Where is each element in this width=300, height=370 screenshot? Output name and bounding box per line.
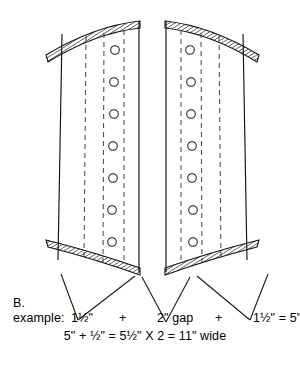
right-board [155,15,267,284]
right-board-top-crown [155,15,267,73]
left-board [40,15,150,284]
measure-a: 1½" [71,311,119,326]
annotation-block: B. example:1½"+2" gap+1½" = 5" 5" + ½" =… [0,296,300,366]
right-board-edges [166,22,247,272]
calculation-line-1: example:1½"+2" gap+1½" = 5" [13,311,300,326]
fastener-circle [189,206,198,215]
right-board-bottom-crown [155,232,267,284]
fastener-circle [109,174,118,183]
gap-measure: 2" gap [157,311,215,326]
right-board-guides [181,30,221,264]
left-board-top-crown [40,15,150,73]
fastener-circle [109,142,118,151]
calculation-line-2: 5" + ½" = 5½" X 2 = 11" wide [0,329,290,344]
fastener-circle [186,46,195,55]
example-label: example: [13,311,71,326]
fastener-circle [108,206,117,215]
left-board-bottom-crown [40,232,150,284]
fastener-circle [188,174,197,183]
fastener-circle [189,238,198,247]
fastener-circle [110,110,119,119]
fastener-circle [187,78,196,87]
diagram-root: B. example:1½"+2" gap+1½" = 5" 5" + ½" =… [0,0,300,370]
fastener-circle [111,46,120,55]
fastener-circle [188,142,197,151]
fastener-circle [110,78,119,87]
fastener-circle [187,110,196,119]
plus-sign-1: + [119,311,157,326]
left-board-guides [84,30,124,264]
plus-sign-2: + [215,311,253,326]
left-board-edges [58,22,139,272]
left-board-fasteners [108,46,120,247]
measure-b-total: 1½" = 5" [253,311,300,326]
right-board-fasteners [186,46,198,247]
figure-label-b: B. [13,296,25,310]
fastener-circle [108,238,117,247]
